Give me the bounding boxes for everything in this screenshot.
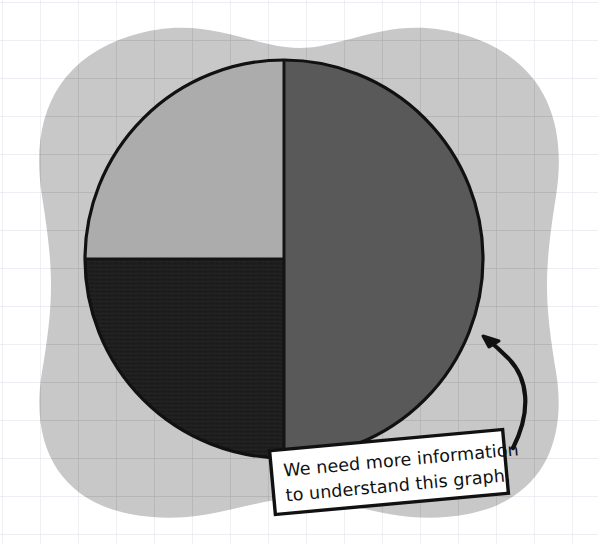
screenshot-canvas: We need more information to understand t…	[0, 0, 598, 544]
callout-box[interactable]: We need more information to understand t…	[270, 428, 523, 514]
annotation-layer: We need more information to understand t…	[0, 0, 598, 544]
